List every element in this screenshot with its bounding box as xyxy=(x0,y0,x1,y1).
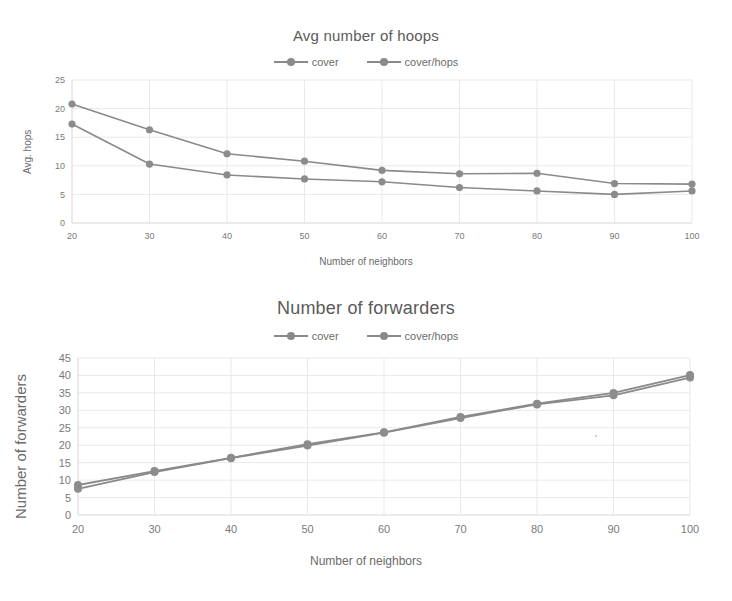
chart2-y-axis-label: Number of forwarders xyxy=(12,356,29,536)
svg-text:40: 40 xyxy=(225,523,237,535)
svg-text:15: 15 xyxy=(55,132,65,142)
legend-marker-line-icon xyxy=(367,331,401,341)
legend-marker-line-icon xyxy=(274,57,308,67)
chart2-plot-area: Number of forwarders 0510152025303540452… xyxy=(0,350,732,550)
legend-item-cover-hops[interactable]: cover/hops xyxy=(367,330,459,342)
svg-text:30: 30 xyxy=(144,231,154,241)
legend-label-cover-hops: cover/hops xyxy=(405,56,459,68)
svg-text:25: 25 xyxy=(55,75,65,85)
svg-text:90: 90 xyxy=(609,231,619,241)
legend-label-cover: cover xyxy=(312,56,339,68)
svg-text:35: 35 xyxy=(59,387,71,399)
chart1-plot-area: Avg. hops 05101520252030405060708090100 xyxy=(0,74,732,254)
legend-item-cover[interactable]: cover xyxy=(274,56,339,68)
chart-avg-number-of-hoops: Avg number of hoops cover cover/hops Avg… xyxy=(0,18,732,288)
svg-text:30: 30 xyxy=(59,404,71,416)
legend-label-cover: cover xyxy=(312,330,339,342)
legend-marker-line-icon xyxy=(367,57,401,67)
chart2-legend: cover cover/hops xyxy=(0,330,732,342)
svg-text:90: 90 xyxy=(607,523,619,535)
svg-text:40: 40 xyxy=(59,369,71,381)
svg-text:70: 70 xyxy=(454,523,466,535)
legend-item-cover[interactable]: cover xyxy=(274,330,339,342)
svg-text:10: 10 xyxy=(55,161,65,171)
chart1-svg: 05101520252030405060708090100 xyxy=(0,74,732,249)
svg-text:80: 80 xyxy=(531,523,543,535)
svg-text:60: 60 xyxy=(377,231,387,241)
chart1-y-axis-label: Avg. hops xyxy=(22,92,33,212)
svg-text:50: 50 xyxy=(299,231,309,241)
svg-text:20: 20 xyxy=(59,439,71,451)
chart1-title: Avg number of hoops xyxy=(0,26,732,46)
svg-text:15: 15 xyxy=(59,457,71,469)
legend-item-cover-hops[interactable]: cover/hops xyxy=(367,56,459,68)
svg-text:80: 80 xyxy=(532,231,542,241)
svg-text:0: 0 xyxy=(60,218,65,228)
svg-text:60: 60 xyxy=(378,523,390,535)
chart-number-of-forwarders: Number of forwarders cover cover/hops Nu… xyxy=(0,292,732,592)
svg-text:100: 100 xyxy=(684,231,699,241)
svg-text:30: 30 xyxy=(148,523,160,535)
chart1-legend: cover cover/hops xyxy=(0,56,732,68)
chart2-x-axis-label: Number of neighbors xyxy=(0,554,732,568)
chart2-title: Number of forwarders xyxy=(0,296,732,320)
svg-text:40: 40 xyxy=(222,231,232,241)
svg-text:10: 10 xyxy=(59,474,71,486)
svg-text:70: 70 xyxy=(454,231,464,241)
svg-text:20: 20 xyxy=(67,231,77,241)
chart2-svg: 0510152025303540452030405060708090100 xyxy=(0,350,732,545)
legend-label-cover-hops: cover/hops xyxy=(405,330,459,342)
svg-text:45: 45 xyxy=(59,352,71,364)
svg-text:20: 20 xyxy=(55,104,65,114)
svg-text:100: 100 xyxy=(681,523,699,535)
svg-text:50: 50 xyxy=(301,523,313,535)
svg-text:5: 5 xyxy=(65,492,71,504)
svg-text:20: 20 xyxy=(72,523,84,535)
svg-text:25: 25 xyxy=(59,422,71,434)
legend-marker-line-icon xyxy=(274,331,308,341)
chart1-x-axis-label: Number of neighbors xyxy=(0,256,732,267)
svg-text:0: 0 xyxy=(65,509,71,521)
svg-text:5: 5 xyxy=(60,190,65,200)
stray-speck xyxy=(595,435,597,437)
